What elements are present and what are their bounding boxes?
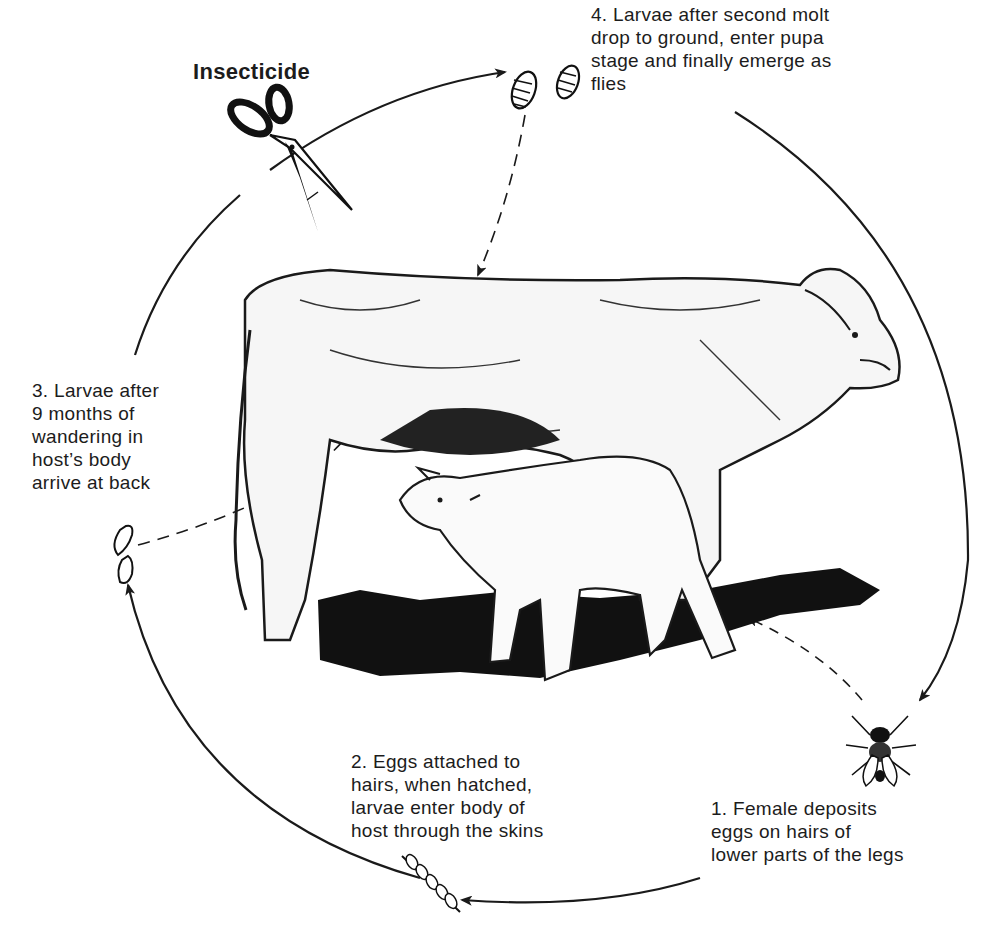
insecticide-label: Insecticide — [193, 60, 310, 83]
stage-3-label: 3. Larvae after 9 months of wandering in… — [32, 379, 159, 494]
stage-1-label: 1. Female deposits eggs on hairs of lowe… — [711, 797, 904, 866]
stage-2-label: 2. Eggs attached to hairs, when hatched,… — [351, 750, 544, 842]
stage-4-label: 4. Larvae after second molt drop to grou… — [591, 3, 831, 95]
life-cycle-diagram: Insecticide 4. Larvae after second molt … — [0, 0, 1000, 934]
